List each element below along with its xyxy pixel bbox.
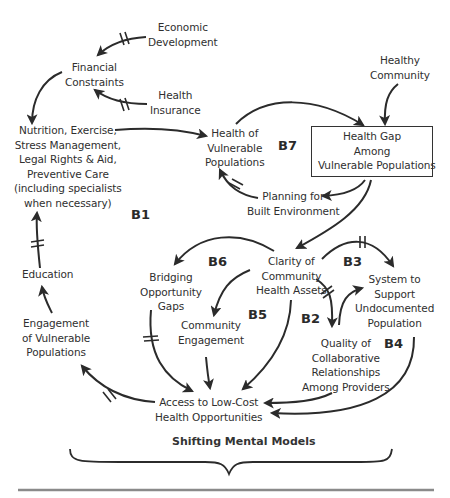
node-text: Legal Rights & Aid, (14, 152, 122, 167)
loop-label-b4: B4 (384, 336, 403, 351)
node-text: Populations (205, 155, 265, 170)
node-text: Development (148, 35, 218, 50)
node-text: Populations (22, 345, 90, 360)
node-text: Among Providers (302, 380, 390, 395)
node-text: Financial (65, 60, 124, 75)
node-clarity-community-health-assets: Clarity of Community Health Assets (256, 254, 327, 298)
node-text: Health Gap (318, 129, 426, 144)
delay-mark-icon (120, 32, 129, 45)
link-financial-to-nutrition (32, 72, 62, 123)
node-text: Health Assets (256, 283, 327, 298)
node-text: Vulnerable (205, 141, 265, 156)
node-text: Relationships (302, 365, 390, 380)
loop-label-b1: B1 (131, 207, 150, 222)
link-quality-to-access (265, 393, 332, 403)
loop-label-b6: B6 (208, 254, 227, 269)
node-text: Insurance (150, 103, 201, 118)
mental-models-brace (70, 449, 392, 474)
node-text: Health Opportunities (155, 410, 262, 425)
node-nutrition-exercise: Nutrition, Exercise, Stress Management, … (14, 123, 122, 210)
node-text: Bridging (140, 270, 202, 285)
loop-label-b3: B3 (343, 254, 362, 269)
link-nutrition-to-health (115, 129, 206, 136)
node-text: Opportunity (140, 285, 202, 300)
node-text: Gaps (140, 299, 202, 314)
node-bridging-opportunity-gaps: Bridging Opportunity Gaps (140, 270, 202, 314)
node-text: Community (256, 269, 327, 284)
node-community-engagement: Community Engagement (178, 318, 244, 347)
node-text: Health of (205, 126, 265, 141)
node-text: Collaborative (302, 351, 390, 366)
node-text: Population (355, 316, 434, 331)
delay-mark-icon (120, 98, 129, 111)
node-access-low-cost-health: Access to Low-Cost Health Opportunities (155, 395, 262, 424)
caption-shifting-mental-models: Shifting Mental Models (172, 435, 316, 448)
node-text: when necessary) (14, 196, 122, 211)
node-text: Clarity of (256, 254, 327, 269)
node-planning-built-environment: Planning for Built Environment (247, 189, 340, 218)
node-text: Economic (148, 20, 218, 35)
node-engagement-of-vulnerable-populations: Engagement of Vulnerable Populations (22, 316, 90, 360)
node-text: of Vulnerable (22, 331, 90, 346)
link-clarity-to-engagement (214, 270, 250, 315)
node-text: Engagement (178, 333, 244, 348)
node-economic-development: Economic Development (148, 20, 218, 49)
link-access-to-engvuln (82, 366, 155, 402)
node-text: Nutrition, Exercise, (14, 123, 122, 138)
node-text: Planning for (247, 189, 340, 204)
node-health-of-vulnerable-populations: Health of Vulnerable Populations (205, 126, 265, 170)
node-text: Education (22, 267, 73, 282)
node-health-insurance: Health Insurance (150, 88, 201, 117)
node-text: Engagement (22, 316, 90, 331)
loop-label-b2: B2 (301, 311, 320, 326)
link-engagement-to-access (206, 357, 210, 388)
node-system-support-undocumented: System to Support Undocumented Populatio… (355, 272, 434, 330)
node-education: Education (22, 267, 73, 282)
link-health-to-gap (236, 102, 363, 125)
node-text: Among (318, 144, 426, 159)
node-quality-collaborative-relationships: Quality of Collaborative Relationships A… (302, 336, 390, 394)
loop-label-b5: B5 (248, 307, 267, 322)
loop-label-b7: B7 (278, 138, 297, 153)
node-text: Community (178, 318, 244, 333)
link-engvuln-to-education (42, 287, 52, 313)
node-text: Stress Management, (14, 138, 122, 153)
node-text: Vulnerable Populations (318, 158, 426, 173)
node-text: Quality of (302, 336, 390, 351)
node-text: Healthy (370, 53, 430, 68)
link-community-to-gap (385, 84, 398, 124)
node-text: System to (355, 272, 434, 287)
node-text: Support (355, 287, 434, 302)
node-text: Access to Low-Cost (155, 395, 262, 410)
node-text: Preventive Care (14, 167, 122, 182)
node-health-gap-box: Health Gap Among Vulnerable Populations (311, 126, 433, 177)
delay-mark-icon (229, 179, 243, 189)
node-text: Community (370, 68, 430, 83)
node-text: Constraints (65, 75, 124, 90)
node-healthy-community: Healthy Community (370, 53, 430, 82)
node-text: Health (150, 88, 201, 103)
node-text: Undocumented (355, 301, 434, 316)
node-text: Built Environment (247, 204, 340, 219)
node-text: (including specialists (14, 181, 122, 196)
node-financial-constraints: Financial Constraints (65, 60, 124, 89)
